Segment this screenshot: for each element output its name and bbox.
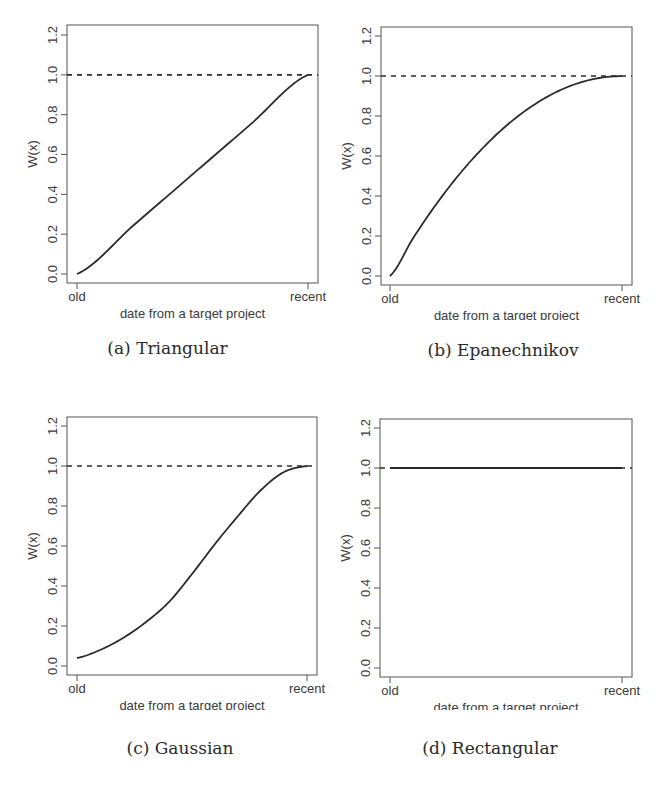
panel-epanechnikov: 0.00.20.40.60.81.01.2W(x)oldrecentdate f… bbox=[335, 0, 671, 390]
y-tick-label: 0.6 bbox=[45, 537, 60, 555]
y-tick-label: 1.2 bbox=[45, 417, 60, 435]
y-tick-label: 0.6 bbox=[359, 147, 374, 165]
x-axis-label: date from a target project bbox=[119, 698, 265, 710]
x-axis-label: date from a target project bbox=[433, 700, 579, 710]
panel-gaussian: 0.00.20.40.60.81.01.2W(x)oldrecentdate f… bbox=[0, 390, 335, 790]
x-tick-label: recent bbox=[290, 289, 327, 304]
y-tick-label: 0.8 bbox=[358, 499, 373, 517]
y-axis-label: W(x) bbox=[339, 142, 354, 169]
caption-triangular: (a) Triangular bbox=[0, 338, 335, 358]
caption-epanechnikov: (b) Epanechnikov bbox=[335, 340, 671, 360]
x-tick-label: old bbox=[68, 289, 85, 304]
y-tick-label: 0.4 bbox=[45, 185, 60, 203]
y-tick-label: 1.2 bbox=[359, 27, 374, 45]
y-tick-label: 0.8 bbox=[45, 497, 60, 515]
plot-frame bbox=[67, 25, 318, 283]
caption-gaussian: (c) Gaussian bbox=[0, 738, 360, 758]
y-tick-label: 1.2 bbox=[358, 419, 373, 437]
y-tick-label: 0.4 bbox=[45, 577, 60, 595]
x-tick-label: old bbox=[68, 681, 85, 696]
kernel-curve bbox=[390, 76, 622, 276]
panel-rectangular: 0.00.20.40.60.81.01.2W(x)oldrecentdate f… bbox=[335, 390, 671, 790]
plot-epanechnikov: 0.00.20.40.60.81.01.2W(x)oldrecentdate f… bbox=[335, 0, 671, 320]
y-tick-label: 1.0 bbox=[45, 66, 60, 84]
x-axis-label: date from a target project bbox=[120, 306, 266, 320]
panel-triangular: 0.00.20.40.60.81.01.2W(x)oldrecentdate f… bbox=[0, 0, 335, 390]
kernel-curve bbox=[77, 466, 307, 658]
y-tick-label: 0.4 bbox=[359, 187, 374, 205]
plot-gaussian: 0.00.20.40.60.81.01.2W(x)oldrecentdate f… bbox=[0, 390, 335, 710]
y-tick-label: 0.6 bbox=[45, 145, 60, 163]
plot-frame bbox=[67, 417, 317, 675]
x-tick-label: recent bbox=[289, 681, 326, 696]
plot-frame bbox=[380, 419, 632, 677]
y-axis-label: W(x) bbox=[25, 140, 40, 167]
y-tick-label: 0.8 bbox=[45, 106, 60, 124]
plot-rectangular: 0.00.20.40.60.81.01.2W(x)oldrecentdate f… bbox=[335, 390, 671, 710]
y-tick-label: 0.2 bbox=[45, 617, 60, 635]
x-tick-label: recent bbox=[604, 683, 641, 698]
y-tick-label: 1.2 bbox=[45, 26, 60, 44]
y-tick-label: 0.2 bbox=[359, 227, 374, 245]
x-axis-label: date from a target project bbox=[434, 308, 580, 320]
y-axis-label: W(x) bbox=[338, 534, 353, 561]
x-tick-label: old bbox=[381, 683, 398, 698]
y-tick-label: 0.2 bbox=[358, 619, 373, 637]
y-tick-label: 0.0 bbox=[358, 659, 373, 677]
y-tick-label: 1.0 bbox=[45, 457, 60, 475]
y-tick-label: 0.8 bbox=[359, 107, 374, 125]
y-tick-label: 0.0 bbox=[45, 265, 60, 283]
x-tick-label: recent bbox=[604, 291, 641, 306]
y-tick-label: 0.2 bbox=[45, 225, 60, 243]
y-tick-label: 0.0 bbox=[45, 657, 60, 675]
caption-rectangular: (d) Rectangular bbox=[335, 738, 645, 758]
y-tick-label: 0.6 bbox=[358, 539, 373, 557]
plot-triangular: 0.00.20.40.60.81.01.2W(x)oldrecentdate f… bbox=[0, 0, 335, 320]
plot-frame bbox=[381, 27, 632, 285]
y-tick-label: 1.0 bbox=[359, 67, 374, 85]
y-axis-label: W(x) bbox=[25, 532, 40, 559]
y-tick-label: 1.0 bbox=[358, 459, 373, 477]
y-tick-label: 0.4 bbox=[358, 579, 373, 597]
y-tick-label: 0.0 bbox=[359, 267, 374, 285]
x-tick-label: old bbox=[381, 291, 398, 306]
kernel-curve bbox=[77, 75, 308, 274]
